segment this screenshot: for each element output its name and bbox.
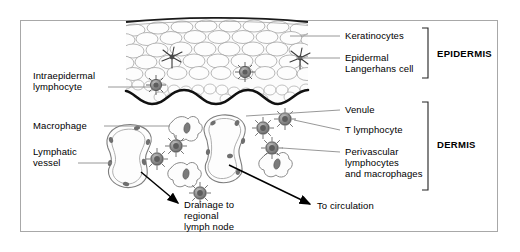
label-t-lymphocyte: T lymphocyte	[345, 124, 403, 136]
label-perivascular-line1: Perivascular	[345, 146, 398, 158]
label-perivascular-line3: and macrophages	[345, 168, 423, 180]
label-venule: Venule	[345, 104, 375, 116]
label-drainage-line3: lymph node	[184, 221, 234, 233]
figure-canvas: Intraepidermal lymphocyte Macrophage Lym…	[0, 0, 520, 252]
label-lymphatic-vessel-line1: Lymphatic	[33, 146, 77, 158]
label-drainage-line2: regional	[184, 210, 219, 222]
label-keratinocytes: Keratinocytes	[345, 30, 404, 42]
label-epidermal-langerhans-cell-line2: Langerhans cell	[345, 63, 414, 75]
label-to-circulation: To circulation	[317, 200, 374, 212]
figure-border	[20, 20, 498, 232]
label-drainage-line1: Drainage to	[184, 199, 234, 211]
bracket-label-dermis: DERMIS	[437, 139, 476, 151]
bracket-label-epidermis: EPIDERMIS	[437, 48, 492, 60]
label-intraepidermal-lymphocyte-line2: lymphocyte	[33, 81, 82, 93]
label-lymphatic-vessel-line2: vessel	[33, 157, 61, 169]
label-perivascular-line2: lymphocytes	[345, 157, 399, 169]
label-epidermal-langerhans-cell-line1: Epidermal	[345, 52, 389, 64]
label-intraepidermal-lymphocyte-line1: Intraepidermal	[33, 70, 95, 82]
label-macrophage: Macrophage	[33, 120, 87, 132]
